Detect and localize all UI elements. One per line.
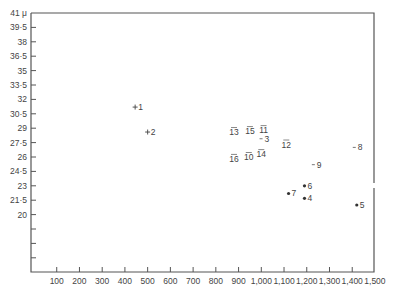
dot-marker-icon: [287, 192, 290, 195]
point-label: 4: [307, 193, 312, 203]
data-point-11: 11: [259, 125, 268, 135]
point-label: 13: [229, 127, 239, 137]
data-point-16: 16: [229, 154, 239, 164]
point-label: 8: [358, 142, 363, 152]
data-point-6: 6: [303, 181, 313, 191]
y-tick-label: 38: [18, 37, 28, 47]
dot-marker-icon: [303, 184, 306, 187]
y-tick-label: 27·5: [10, 138, 27, 148]
data-point-15: 15: [245, 126, 255, 136]
point-label: 11: [259, 125, 268, 135]
y-tick-label: 30·5: [10, 109, 27, 119]
x-axis: 1002003004005006007008009001,0001,1001,2…: [50, 267, 386, 286]
y-tick-label: 33·5: [10, 80, 27, 90]
y-tick-label: 26: [18, 152, 28, 162]
scatter-plot: 41 μ39·53836·53533·53230·52927·52624·523…: [0, 0, 396, 288]
x-tick-label: 300: [95, 276, 109, 286]
x-tick-label: 200: [72, 276, 86, 286]
x-tick-label: 1,300: [319, 276, 341, 286]
data-point-9: 9: [312, 160, 322, 170]
y-tick-label: 36·5: [10, 51, 27, 61]
plot-frame: [31, 13, 374, 272]
x-tick-label: 600: [163, 276, 177, 286]
point-label: 12: [282, 140, 292, 150]
y-tick-label: 32: [18, 94, 28, 104]
point-label: 3: [265, 134, 270, 144]
dot-marker-icon: [355, 203, 358, 206]
point-label: 10: [244, 152, 254, 162]
data-point-8: 8: [353, 142, 363, 152]
point-label: 6: [307, 181, 312, 191]
data-point-10: 10: [244, 152, 254, 162]
x-tick-label: 1,200: [296, 276, 318, 286]
x-tick-label: 100: [50, 276, 64, 286]
frame-top-right: [31, 13, 374, 183]
point-label: 15: [245, 126, 255, 136]
y-tick-label: 29: [18, 123, 28, 133]
data-points: 12345678910111213141516: [133, 102, 365, 210]
data-point-3: 3: [260, 134, 270, 144]
y-tick-label: 39·5: [10, 22, 27, 32]
data-point-2: 2: [145, 127, 156, 137]
y-axis: 41 μ39·53836·53533·53230·52927·52624·523…: [10, 8, 36, 258]
y-tick-label: 24·5: [10, 166, 27, 176]
y-tick-label: 35: [18, 66, 28, 76]
data-point-13: 13: [229, 127, 239, 137]
data-point-4: 4: [303, 193, 313, 203]
x-tick-label: 1,500: [364, 276, 386, 286]
x-tick-label: 400: [118, 276, 132, 286]
x-tick-label: 500: [141, 276, 155, 286]
x-tick-label: 800: [209, 276, 223, 286]
point-label: 9: [317, 160, 322, 170]
point-label: 14: [257, 149, 267, 159]
data-point-12: 12: [282, 140, 292, 150]
x-tick-label: 700: [186, 276, 200, 286]
y-tick-label: 41 μ: [10, 8, 27, 18]
point-label: 1: [138, 102, 143, 112]
point-label: 2: [151, 127, 156, 137]
data-point-14: 14: [257, 149, 267, 159]
x-tick-label: 900: [231, 276, 245, 286]
data-point-5: 5: [355, 200, 365, 210]
x-tick-label: 1,100: [273, 276, 295, 286]
frame-bottom-left: [31, 13, 374, 272]
point-label: 5: [360, 200, 365, 210]
y-tick-label: 23: [18, 181, 28, 191]
point-label: 7: [292, 188, 297, 198]
data-point-1: 1: [133, 102, 144, 112]
x-tick-label: 1,400: [342, 276, 364, 286]
x-tick-label: 1,000: [251, 276, 273, 286]
data-point-7: 7: [287, 188, 297, 198]
y-tick-label: 20: [18, 210, 28, 220]
y-tick-label: 21·5: [10, 195, 27, 205]
point-label: 16: [229, 154, 239, 164]
dot-marker-icon: [303, 197, 306, 200]
